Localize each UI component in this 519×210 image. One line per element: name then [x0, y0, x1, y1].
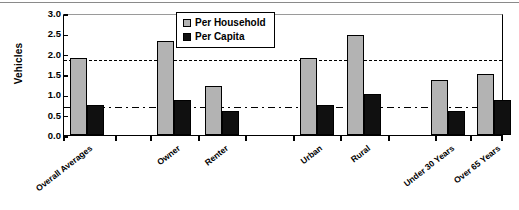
- y-axis-tick-labels: 3.02.52.01.51.00.50.0: [25, 14, 61, 136]
- y-tick-mark: [64, 116, 68, 118]
- y-tick-mark: [64, 35, 68, 37]
- bar-per-household: [300, 58, 317, 135]
- overall-per-household-reference: [64, 60, 502, 61]
- y-tick-mark: [64, 96, 68, 98]
- x-tick-mark: [388, 136, 390, 141]
- y-tick-mark: [64, 55, 68, 57]
- y-tick-mark: [64, 75, 68, 77]
- x-tick-marks-group: [63, 136, 503, 142]
- y-axis-title: Vehicles: [13, 24, 24, 104]
- x-tick-label: Overall Averages: [0, 143, 94, 210]
- bar-per-capita: [494, 100, 511, 135]
- bar-per-capita: [222, 111, 239, 135]
- bar-per-household: [157, 41, 174, 135]
- household-swatch: [183, 19, 191, 27]
- x-tick-mark: [198, 136, 200, 141]
- plot-area: [63, 14, 503, 136]
- bar-per-household: [477, 74, 494, 135]
- x-tick-mark: [340, 136, 342, 141]
- x-tick-mark: [293, 136, 295, 141]
- y-tick-label: 3.0: [27, 9, 61, 19]
- bar-per-capita: [317, 105, 334, 136]
- x-tick-mark: [63, 136, 65, 141]
- y-tick-label: 1.5: [27, 70, 61, 80]
- x-tick-label: Over 65 Years: [338, 143, 502, 210]
- x-tick-mark: [435, 136, 437, 141]
- y-tick-label: 0.0: [27, 131, 61, 141]
- legend-item: Per Household: [183, 16, 266, 30]
- x-tick-label: Renter: [66, 143, 230, 210]
- x-tick-label: Urban: [160, 143, 324, 210]
- plot-inner: [64, 15, 502, 135]
- bar-per-household: [205, 86, 222, 135]
- x-tick-mark: [115, 136, 117, 141]
- y-tick-label: 1.0: [27, 90, 61, 100]
- legend-item-label: Per Household: [195, 17, 266, 29]
- y-tick-label: 2.0: [27, 50, 61, 60]
- capita-swatch: [183, 33, 191, 41]
- x-tick-mark: [245, 136, 247, 141]
- x-tick-mark: [501, 136, 503, 141]
- y-tick-label: 0.5: [27, 111, 61, 121]
- bar-per-household: [431, 80, 448, 135]
- legend-item: Per Capita: [183, 30, 266, 44]
- y-tick-mark: [64, 14, 68, 16]
- x-tick-label: Under 30 Years: [292, 143, 456, 210]
- bar-per-household: [347, 35, 364, 135]
- x-tick-label: Rural: [208, 143, 372, 210]
- x-tick-mark: [470, 136, 472, 141]
- bar-per-capita: [87, 105, 104, 136]
- x-tick-label: Owner: [18, 143, 182, 210]
- bar-per-capita: [364, 94, 381, 135]
- chart-figure: Vehicles 3.02.52.01.51.00.50.0 Overall A…: [0, 0, 519, 210]
- legend-item-label: Per Capita: [195, 31, 244, 43]
- bar-per-household: [70, 58, 87, 135]
- bar-per-capita: [448, 111, 465, 135]
- bar-per-capita: [174, 100, 191, 135]
- top-divider-rule: [0, 2, 519, 3]
- x-tick-mark: [150, 136, 152, 141]
- chart-legend: Per HouseholdPer Capita: [176, 12, 275, 48]
- y-tick-label: 2.5: [27, 29, 61, 39]
